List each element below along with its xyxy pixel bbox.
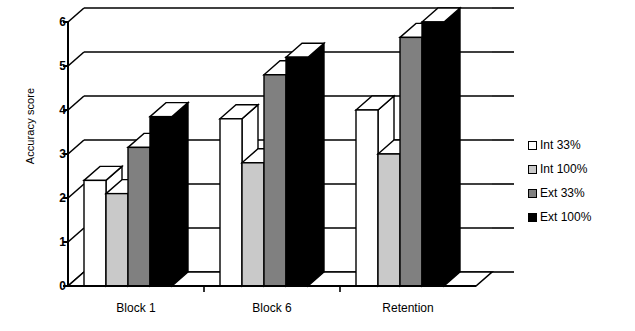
x-tick-label-block-6: Block 6 (252, 302, 291, 314)
x-tick-label-block-1: Block 1 (116, 302, 155, 314)
legend-item-ext100[interactable]: Ext 100% (528, 205, 633, 229)
legend: Int 33%Int 100%Ext 33%Ext 100% (528, 133, 633, 229)
legend-item-int100[interactable]: Int 100% (528, 157, 633, 181)
legend-swatch-icon-1 (528, 165, 537, 174)
legend-label: Int 33% (540, 139, 581, 151)
legend-label: Ext 33% (540, 187, 585, 199)
bar-chart: Accuracy score 0123456 Block 1Block 6Ret… (0, 0, 635, 331)
x-tick-label-retention: Retention (382, 302, 433, 314)
legend-label: Int 100% (540, 163, 587, 175)
legend-swatch-icon-2 (528, 189, 537, 198)
legend-item-ext33[interactable]: Ext 33% (528, 181, 633, 205)
legend-swatch-icon-3 (528, 213, 537, 222)
legend-label: Ext 100% (540, 211, 591, 223)
legend-item-int33[interactable]: Int 33% (528, 133, 633, 157)
legend-swatch-icon-0 (528, 141, 537, 150)
